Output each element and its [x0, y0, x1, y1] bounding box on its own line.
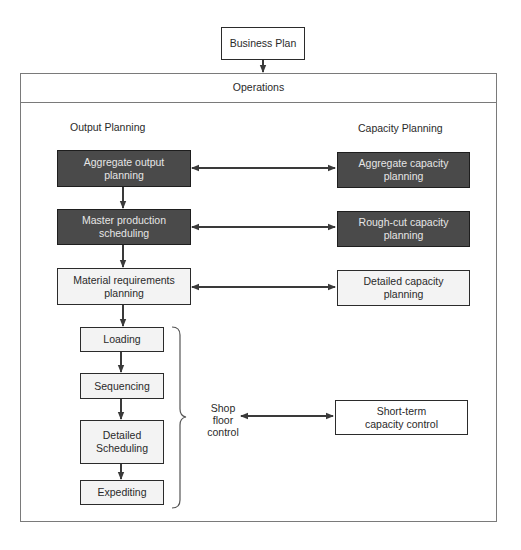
operations-title: Operations [20, 81, 497, 93]
box-line: Scheduling [96, 442, 148, 455]
box-line: Sequencing [94, 380, 149, 393]
box-line: planning [84, 169, 165, 182]
business-plan-box: Business Plan [221, 27, 305, 60]
box-line: planning [364, 288, 444, 301]
business-plan-label: Business Plan [230, 37, 297, 50]
box-line: planning [73, 287, 175, 300]
box-line: Master production [82, 214, 166, 227]
sequencing-box: Sequencing [80, 373, 164, 399]
rough-cut-capacity-planning-box: Rough-cut capacity planning [337, 211, 470, 247]
box-line: Material requirements [73, 274, 175, 287]
capacity-planning-heading: Capacity Planning [358, 122, 468, 134]
box-line: Aggregate capacity [359, 157, 449, 170]
loading-box: Loading [80, 327, 164, 352]
expediting-box: Expediting [80, 480, 164, 505]
shop-floor-brace [172, 327, 186, 508]
label-line: Shop [195, 402, 251, 414]
box-line: Rough-cut capacity [359, 216, 449, 229]
box-line: Loading [103, 333, 140, 346]
box-line: planning [359, 229, 449, 242]
aggregate-capacity-planning-box: Aggregate capacity planning [337, 152, 470, 188]
box-line: Aggregate output [84, 156, 165, 169]
box-line: Detailed [96, 429, 148, 442]
detailed-scheduling-box: Detailed Scheduling [80, 420, 164, 464]
master-production-scheduling-box: Master production scheduling [57, 209, 191, 245]
box-line: Expediting [97, 486, 146, 499]
material-requirements-planning-box: Material requirements planning [57, 268, 191, 305]
label-line: floor [195, 414, 251, 426]
box-line: planning [359, 170, 449, 183]
short-term-capacity-control-box: Short-term capacity control [335, 400, 468, 435]
label-line: control [195, 426, 251, 438]
box-line: Short-term [365, 405, 438, 418]
box-line: Detailed capacity [364, 275, 444, 288]
box-line: capacity control [365, 418, 438, 431]
box-line: scheduling [82, 227, 166, 240]
detailed-capacity-planning-box: Detailed capacity planning [337, 270, 470, 306]
output-planning-heading: Output Planning [70, 121, 175, 133]
aggregate-output-planning-box: Aggregate output planning [57, 150, 191, 187]
shop-floor-control-label: Shop floor control [195, 402, 251, 438]
